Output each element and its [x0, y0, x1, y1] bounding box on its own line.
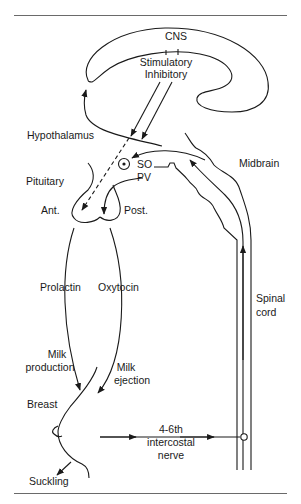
- synapse-node: [241, 434, 247, 440]
- label-nerve-2: intercostal: [147, 436, 195, 448]
- label-suckling: Suckling: [29, 475, 69, 487]
- label-post: Post.: [124, 204, 148, 216]
- label-milk-production-1: Milk: [48, 348, 67, 360]
- label-milk-ejection-2: ejection: [114, 374, 150, 386]
- label-milk-ejection-1: Milk: [117, 361, 136, 373]
- label-so: SO: [137, 158, 152, 170]
- label-oxytocin: Oxytocin: [98, 281, 139, 293]
- suckling-arrow: [57, 462, 71, 475]
- midbrain-outline: [185, 133, 251, 470]
- label-nerve-1: 4-6th: [159, 423, 183, 435]
- afferent-to-cns: [84, 90, 162, 146]
- label-prolactin: Prolactin: [40, 281, 81, 293]
- spinal-ascending-path: [190, 160, 243, 470]
- label-hypothalamus: Hypothalamus: [27, 129, 94, 141]
- pituitary-stalk-left: [72, 163, 100, 223]
- inhibitory-arrow: [142, 82, 172, 139]
- label-ant: Ant.: [41, 204, 60, 216]
- label-cord: cord: [256, 306, 277, 318]
- label-pv: PV: [137, 171, 151, 183]
- label-inhibitory: Inhibitory: [145, 68, 188, 80]
- label-pituitary: Pituitary: [26, 175, 65, 187]
- label-spinal: Spinal: [256, 292, 285, 304]
- reflex-diagram: CNS Stimulatory Inhibitory Hypothalamus …: [0, 0, 301, 504]
- stimulatory-arrow: [131, 82, 160, 136]
- label-milk-production-2: production: [25, 361, 74, 373]
- label-breast: Breast: [27, 398, 57, 410]
- nipple: [53, 426, 62, 437]
- breast-outline: [58, 367, 97, 478]
- label-midbrain: Midbrain: [239, 157, 279, 169]
- label-nerve-3: nerve: [158, 449, 184, 461]
- label-stimulatory: Stimulatory: [140, 56, 193, 68]
- label-cns: CNS: [165, 30, 187, 42]
